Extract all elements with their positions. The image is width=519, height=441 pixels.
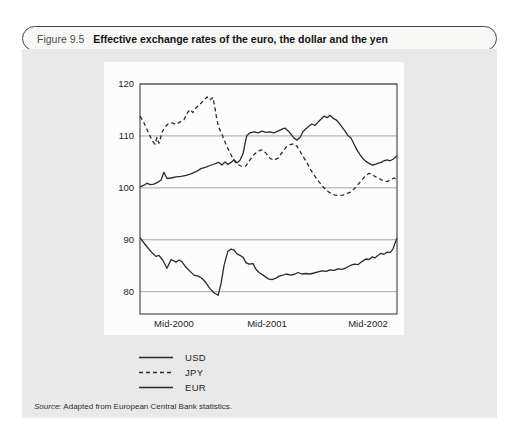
source-prefix: Source:: [34, 402, 62, 411]
legend-swatch-jpy: [139, 369, 173, 376]
source-text: Adapted from European Central Bank stati…: [62, 402, 232, 411]
y-axis-label-110: 110: [119, 130, 134, 141]
source-note: Source: Adapted from European Central Ba…: [34, 402, 232, 411]
legend-label-usd: USD: [185, 352, 206, 363]
figure-label: Figure 9.5: [37, 33, 84, 45]
legend-label-jpy: JPY: [185, 367, 203, 378]
legend-label-eur: EUR: [185, 382, 206, 393]
exchange-rate-line-chart: 1201101009080Mid-2000Mid-2001Mid-2002: [104, 62, 404, 335]
figure-title-pill: Figure 9.5 Effective exchange rates of t…: [22, 26, 497, 51]
chart-area: 1201101009080Mid-2000Mid-2001Mid-2002: [104, 62, 404, 335]
figure-page: { "figure": { "label": "Figure 9.5", "ti…: [0, 0, 519, 441]
legend-swatch-eur: [139, 384, 173, 391]
y-axis-label-120: 120: [118, 78, 134, 89]
legend-item-eur: EUR: [139, 380, 206, 395]
figure-title: Effective exchange rates of the euro, th…: [93, 33, 388, 45]
series-line-eur: [140, 238, 397, 296]
y-axis-label-90: 90: [123, 234, 134, 245]
x-axis-label-mid-2002: Mid-2002: [348, 318, 388, 329]
x-axis-label-mid-2000: Mid-2000: [154, 318, 194, 329]
series-line-usd: [140, 115, 397, 187]
y-axis-label-80: 80: [123, 286, 134, 297]
legend-swatch-usd: [139, 354, 173, 361]
legend-item-jpy: JPY: [139, 365, 206, 380]
x-axis-label-mid-2001: Mid-2001: [247, 318, 287, 329]
y-axis-label-100: 100: [118, 182, 134, 193]
series-line-jpy: [140, 97, 397, 196]
chart-legend: USDJPYEUR: [139, 350, 206, 395]
legend-item-usd: USD: [139, 350, 206, 365]
